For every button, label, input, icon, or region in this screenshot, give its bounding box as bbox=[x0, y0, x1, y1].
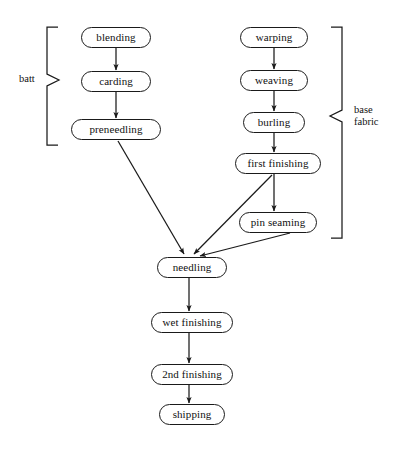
node-warping[interactable]: warping bbox=[240, 27, 308, 48]
edge-pin-seaming-needling bbox=[200, 233, 290, 256]
node-label: needling bbox=[173, 262, 212, 273]
batt-brace bbox=[47, 27, 59, 145]
node-label: 2nd finishing bbox=[162, 369, 222, 380]
node-burling[interactable]: burling bbox=[243, 112, 305, 133]
flowchart-canvas: blending carding preneedling warping wea… bbox=[0, 0, 402, 455]
node-label: warping bbox=[256, 32, 293, 43]
node-shipping[interactable]: shipping bbox=[159, 404, 225, 425]
node-wet-finishing[interactable]: wet finishing bbox=[151, 312, 233, 333]
node-needling[interactable]: needling bbox=[157, 257, 227, 278]
node-label: pin seaming bbox=[251, 217, 306, 228]
node-blending[interactable]: blending bbox=[81, 27, 151, 48]
node-label: preneedling bbox=[89, 124, 142, 135]
node-label: weaving bbox=[255, 75, 293, 86]
base-fabric-brace bbox=[330, 27, 342, 238]
node-label: burling bbox=[258, 117, 290, 128]
edge-preneedling-needling bbox=[118, 141, 184, 254]
node-label: shipping bbox=[173, 409, 212, 420]
node-label: wet finishing bbox=[162, 317, 221, 328]
node-preneedling[interactable]: preneedling bbox=[71, 119, 161, 140]
node-label: carding bbox=[99, 76, 133, 87]
node-pin-seaming[interactable]: pin seaming bbox=[239, 212, 317, 233]
flow-connectors-layer bbox=[0, 0, 402, 455]
node-first-finishing[interactable]: first finishing bbox=[235, 153, 321, 174]
group-label-base-fabric: base fabric bbox=[354, 104, 378, 128]
node-label: blending bbox=[96, 32, 135, 43]
node-label: first finishing bbox=[247, 158, 308, 169]
group-label-batt: batt bbox=[19, 73, 35, 85]
node-weaving[interactable]: weaving bbox=[240, 70, 308, 91]
node-carding[interactable]: carding bbox=[81, 71, 151, 92]
node-second-finishing[interactable]: 2nd finishing bbox=[151, 364, 233, 385]
